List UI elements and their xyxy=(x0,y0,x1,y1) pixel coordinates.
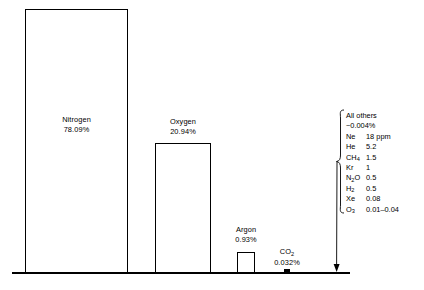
bar-label-nitrogen-value: 78.09% xyxy=(64,125,90,134)
legend-symbol-he: He xyxy=(346,142,366,152)
legend-heading: All others xyxy=(346,111,399,121)
atmospheric-composition-chart: Nitrogen 78.09% Oxygen 20.94% Argon 0.93… xyxy=(0,0,424,290)
bar-nitrogen xyxy=(25,9,128,273)
bar-label-nitrogen: Nitrogen 78.09% xyxy=(25,115,128,134)
legend-symbol-kr: Kr xyxy=(346,163,366,173)
bar-label-oxygen-value: 20.94% xyxy=(170,127,196,136)
bar-label-co2-value: 0.032% xyxy=(274,258,300,267)
legend-row-h2: H20.5 xyxy=(346,184,399,194)
legend-value-o3: 0.01–0.04 xyxy=(366,205,399,215)
baseline-axis xyxy=(12,272,350,274)
trace-gas-legend: All others ~0.004% Ne18 ppm He5.2 CH41.5… xyxy=(346,111,399,215)
bar-label-co2-subscript: 2 xyxy=(291,251,294,257)
bar-label-co2-name: CO2 xyxy=(280,247,295,256)
bar-label-co2: CO2 0.032% xyxy=(252,247,322,267)
legend-symbol-h2: H2 xyxy=(346,184,366,194)
legend-row-ne: Ne18 ppm xyxy=(346,132,399,142)
bar-label-argon-value: 0.93% xyxy=(235,235,256,244)
bar-label-argon-name: Argon xyxy=(236,225,256,234)
legend-symbol-ch4: CH4 xyxy=(346,153,366,163)
bar-label-oxygen-name: Oxygen xyxy=(170,117,196,126)
legend-symbol-ne: Ne xyxy=(346,132,366,142)
left-brace-icon xyxy=(337,110,345,213)
legend-value-kr: 1 xyxy=(366,163,370,173)
legend-value-n2o: 0.5 xyxy=(366,173,376,183)
callout-arrowhead-icon xyxy=(334,264,340,272)
legend-value-ne: 18 ppm xyxy=(366,132,391,142)
legend-symbol-n2o: N2O xyxy=(346,173,366,183)
legend-symbol-o3: O3 xyxy=(346,205,366,215)
bar-oxygen xyxy=(155,143,211,273)
bar-label-oxygen: Oxygen 20.94% xyxy=(143,117,223,136)
legend-value-h2: 0.5 xyxy=(366,184,376,194)
legend-row-ch4: CH41.5 xyxy=(346,153,399,163)
legend-row-kr: Kr1 xyxy=(346,163,399,173)
legend-symbol-xe: Xe xyxy=(346,194,366,204)
legend-value-he: 5.2 xyxy=(366,142,376,152)
bar-label-nitrogen-name: Nitrogen xyxy=(62,115,91,124)
legend-row-o3: O30.01–0.04 xyxy=(346,205,399,215)
legend-row-he: He5.2 xyxy=(346,142,399,152)
legend-heading-value: ~0.004% xyxy=(346,121,399,131)
legend-row-n2o: N2O0.5 xyxy=(346,173,399,183)
legend-row-xe: Xe0.08 xyxy=(346,194,399,204)
bar-label-argon: Argon 0.93% xyxy=(211,225,281,244)
legend-value-xe: 0.08 xyxy=(366,194,380,204)
legend-value-ch4: 1.5 xyxy=(366,153,376,163)
